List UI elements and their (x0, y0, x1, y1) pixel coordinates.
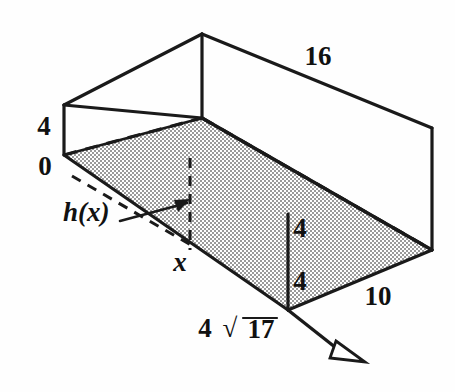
label-right-lower: 4 (293, 266, 307, 296)
label-diagonal-radical: 4 √ 17 (198, 313, 277, 344)
label-left-zero: 0 (38, 151, 52, 181)
label-top-length: 16 (305, 41, 332, 71)
axis-arrow-group (288, 310, 365, 362)
label-left-height: 4 (37, 111, 51, 141)
label-right-upper: 4 (293, 213, 307, 243)
figure-container: 16 4 0 h(x) x 4 4 10 4 √ 17 (0, 0, 455, 392)
label-depth-length: 10 (365, 281, 392, 311)
box-edge-top-left-front (64, 105, 202, 118)
label-x: x (172, 247, 187, 277)
radical-coefficient: 4 (198, 313, 212, 343)
open-arrowhead-icon (330, 341, 365, 362)
geometry-diagram: 16 4 0 h(x) x 4 4 10 4 √ 17 (0, 0, 455, 392)
label-hx: h(x) (63, 197, 110, 227)
box-edge-top-left-back (64, 34, 202, 105)
radical-symbol: √ (223, 313, 238, 343)
